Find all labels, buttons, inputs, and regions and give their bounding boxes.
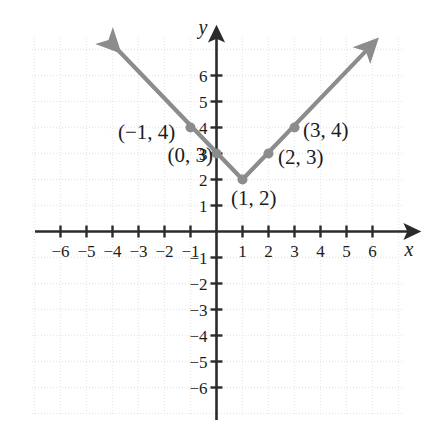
y-tick-label: 1: [199, 198, 208, 215]
x-tick-label: 5: [342, 243, 351, 260]
y-tick-label: −6: [189, 380, 207, 397]
x-tick-label: −4: [103, 243, 121, 260]
point-annotation: (0, 3): [168, 145, 214, 166]
x-tick-label: −6: [51, 243, 69, 260]
x-axis-label: x: [405, 239, 414, 259]
y-tick-label: −2: [189, 276, 207, 293]
point-annotation: (2, 3): [278, 147, 324, 168]
y-tick-label: −3: [189, 302, 207, 319]
curve-absolute-value: [113, 44, 370, 179]
x-tick-label: 1: [238, 243, 247, 260]
curve-polyline: [113, 44, 370, 179]
point-annotation: (1, 2): [231, 188, 277, 209]
x-tick-label: −5: [77, 243, 95, 260]
data-point-marker: [290, 123, 300, 133]
axes: [35, 34, 412, 420]
y-tick-label: 4: [199, 120, 208, 137]
y-tick-label: −5: [189, 354, 207, 371]
point-annotation: (−1, 4): [118, 122, 175, 143]
point-annotation: (3, 4): [303, 120, 349, 141]
x-tick-label: −2: [155, 243, 173, 260]
data-point-marker: [264, 149, 274, 159]
graph-figure: −6−5−4−3−2−1123456654321−1−2−3−4−5−6xy(−…: [0, 0, 448, 441]
x-tick-label: −3: [129, 243, 147, 260]
x-tick-label: 3: [290, 243, 299, 260]
y-axis-label: y: [199, 17, 208, 37]
y-tick-label: 2: [199, 172, 208, 189]
y-tick-label: 5: [199, 94, 208, 111]
y-tick-label: 6: [199, 68, 208, 85]
coordinate-plane-svg: [0, 0, 448, 441]
x-tick-label: 4: [316, 243, 325, 260]
data-point-marker: [238, 175, 248, 185]
y-tick-label: −4: [189, 328, 207, 345]
x-tick-label: 6: [368, 243, 377, 260]
data-point-marker: [186, 123, 196, 133]
y-tick-label: −1: [189, 250, 207, 267]
data-point-marker: [212, 149, 222, 159]
x-tick-label: 2: [264, 243, 273, 260]
